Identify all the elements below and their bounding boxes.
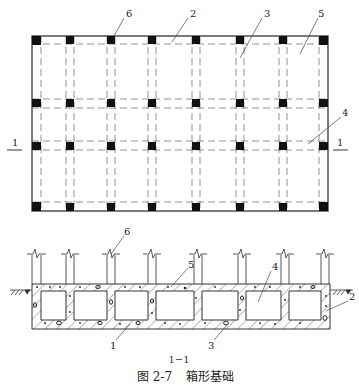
plan-outline [32, 36, 328, 211]
section-mark-right-label: 1 [337, 137, 343, 148]
section-callout-2: 2 [349, 291, 355, 302]
plan-callout-5: 5 [318, 8, 324, 19]
box-concrete-body [32, 284, 330, 329]
section-callout-1: 1 [110, 340, 116, 351]
section-callout-4: 4 [272, 261, 278, 272]
plan-callout-3: 3 [264, 8, 270, 19]
plan-callout-2: 2 [190, 8, 196, 19]
box-foundation-figure: 6 2 3 5 4 1 1 [0, 0, 359, 385]
plan-view: 6 2 3 5 4 1 1 [7, 8, 348, 211]
plan-callout-4: 4 [342, 107, 348, 118]
figure-number: 图 2-7 [137, 370, 172, 384]
figure-title: 箱形基础 [186, 369, 234, 384]
section-callout-3: 3 [208, 340, 214, 351]
section-columns [27, 249, 334, 284]
plan-callout-6: 6 [126, 8, 132, 19]
section-view: 6 5 4 2 1 3 [10, 226, 355, 351]
ground-line-left [10, 290, 32, 295]
section-callout-6: 6 [124, 226, 130, 237]
plan-dashed-walls-horizontal [32, 44, 328, 202]
plan-dashed-walls-vertical [41, 36, 319, 211]
section-title: 1−1 [168, 354, 189, 365]
section-callout-5: 5 [188, 259, 194, 270]
section-mark-left-label: 1 [12, 137, 18, 148]
plan-columns [32, 36, 328, 211]
